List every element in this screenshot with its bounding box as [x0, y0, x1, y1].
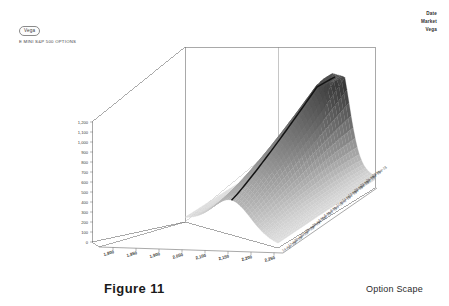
z-tick-1: 1,100 — [78, 130, 89, 135]
x-tick-5: 2,150 — [218, 253, 230, 261]
x-tick-1: 1,850 — [126, 250, 138, 258]
y-tick-15: 29-May-15 — [371, 165, 387, 177]
x-tick-4: 2,100 — [195, 253, 207, 261]
z-tick-8: 400 — [81, 200, 89, 205]
z-axis: 1,200 1,100 1,000 900 800 700 600 500 40… — [78, 120, 93, 245]
x-tick-0: 1,800 — [103, 249, 115, 257]
z-tick-4: 800 — [81, 160, 89, 165]
figure-caption: Figure 11 — [104, 281, 165, 296]
x-tick-6: 2,200 — [241, 254, 253, 262]
z-tick-5: 700 — [81, 170, 89, 175]
x-tick-3: 2,050 — [172, 252, 184, 260]
z-tick-9: 300 — [81, 210, 89, 215]
z-tick-6: 600 — [81, 180, 89, 185]
z-tick-2: 1,000 — [78, 140, 89, 145]
x-tick-7: 2,250 — [264, 255, 276, 263]
x-tick-2: 1,900 — [149, 251, 161, 259]
figure-page: Vega E MINI S&P 500 OPTIONS Date Market … — [0, 0, 449, 306]
z-tick-7: 500 — [81, 190, 89, 195]
z-tick-0: 1,200 — [78, 120, 89, 125]
z-tick-12: 0 — [86, 240, 89, 245]
vega-surface — [185, 73, 378, 243]
x-axis: 1,800 1,850 1,900 2,050 2,100 2,150 2,20… — [99, 247, 283, 263]
z-tick-11: 100 — [81, 230, 89, 235]
z-tick-10: 200 — [81, 220, 89, 225]
option-scape-caption: Option Scape — [366, 284, 423, 294]
z-tick-3: 900 — [81, 150, 89, 155]
surface-plot: 1,200 1,100 1,000 900 800 700 600 500 40… — [0, 0, 449, 306]
